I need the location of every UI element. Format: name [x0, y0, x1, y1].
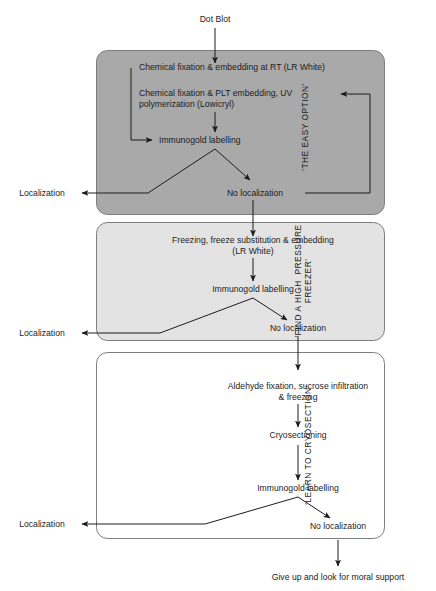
s1-step-immunogold-labelling: Immunogold labelling: [159, 135, 241, 146]
s3-outcome-localization: Localization: [19, 519, 65, 530]
flowchart-diagram: Dot Blot Chemical fixation & embedding a…: [0, 0, 436, 591]
s2-outcome-localization: Localization: [19, 328, 65, 339]
s2-step-immunogold-labelling: Immunogold labelling: [212, 284, 294, 295]
s3-outcome-no-localization: No localization: [310, 521, 366, 532]
s3-step-aldehyde-fixation: Aldehyde fixation, sucrose infiltration …: [228, 381, 368, 402]
s3-step-immunogold-labelling: Immunogold labelling: [257, 483, 339, 494]
final-node-give-up: Give up and look for moral support: [272, 572, 405, 583]
s3-step-cryosectioning: Cryosectioning: [269, 430, 326, 441]
s1-outcome-no-localization: No localization: [227, 188, 283, 199]
entry-node-dot-blot: Dot Blot: [200, 14, 231, 25]
s1-step-chemical-fixation-plt: Chemical fixation & PLT embedding, UV po…: [139, 88, 292, 109]
side-label-learn-to-cryosection: 'LEARN TO CRYOSECTION': [303, 355, 313, 535]
s1-outcome-localization: Localization: [19, 188, 65, 199]
s1-step-chemical-fixation-rt: Chemical fixation & embedding at RT (LR …: [139, 62, 325, 73]
side-label-high-pressure-freezer: 'FIND A HIGH PRESSURE FREEZER': [293, 201, 313, 361]
side-label-easy-option: 'THE EASY OPTION': [300, 37, 310, 217]
